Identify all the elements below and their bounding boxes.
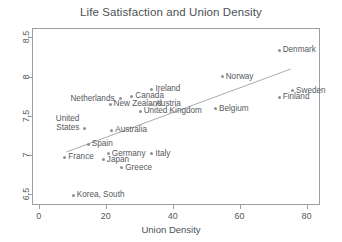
point-label: Australia (115, 125, 147, 134)
x-tick-label: 0 (24, 211, 54, 221)
x-tick-label: 40 (158, 211, 188, 221)
x-tick-mark (39, 205, 40, 209)
chart-figure: Life Satisfaction and Union Density Denm… (0, 0, 342, 242)
y-tick-label: 8.5 (21, 24, 31, 50)
plot-area: DenmarkNorwaySwedenFinlandIrelandCanadaN… (32, 28, 320, 205)
data-point (278, 49, 281, 52)
x-tick-mark (173, 205, 174, 209)
chart-title: Life Satisfaction and Union Density (0, 6, 342, 18)
point-label: UnitedStates (56, 114, 80, 132)
point-label: France (68, 152, 93, 161)
point-label: Belgium (219, 104, 249, 113)
y-tick-label: 7.5 (21, 103, 31, 129)
point-label: Netherlands (70, 94, 114, 103)
point-label: Greece (125, 163, 152, 172)
data-point (109, 103, 112, 106)
x-tick-mark (307, 205, 308, 209)
point-label: Spain (92, 139, 113, 148)
data-point (72, 194, 75, 197)
point-label: Denmark (283, 45, 316, 54)
x-axis-title: Union Density (0, 224, 342, 235)
x-tick-label: 80 (292, 211, 322, 221)
x-tick-label: 60 (225, 211, 255, 221)
point-label: United Kingdom (144, 106, 202, 115)
data-point (87, 143, 90, 146)
y-tick-label: 8 (21, 64, 31, 90)
point-label: Finland (283, 92, 310, 101)
x-tick-label: 20 (91, 211, 121, 221)
point-label: Norway (226, 72, 254, 81)
data-point (278, 96, 281, 99)
y-tick-label: 7 (21, 142, 31, 168)
data-point (139, 110, 142, 113)
y-tick-label: 6.5 (21, 181, 31, 207)
x-tick-mark (240, 205, 241, 209)
data-point (110, 129, 113, 132)
point-label: Italy (155, 149, 170, 158)
point-label: Korea, South (77, 190, 125, 199)
x-tick-mark (106, 205, 107, 209)
